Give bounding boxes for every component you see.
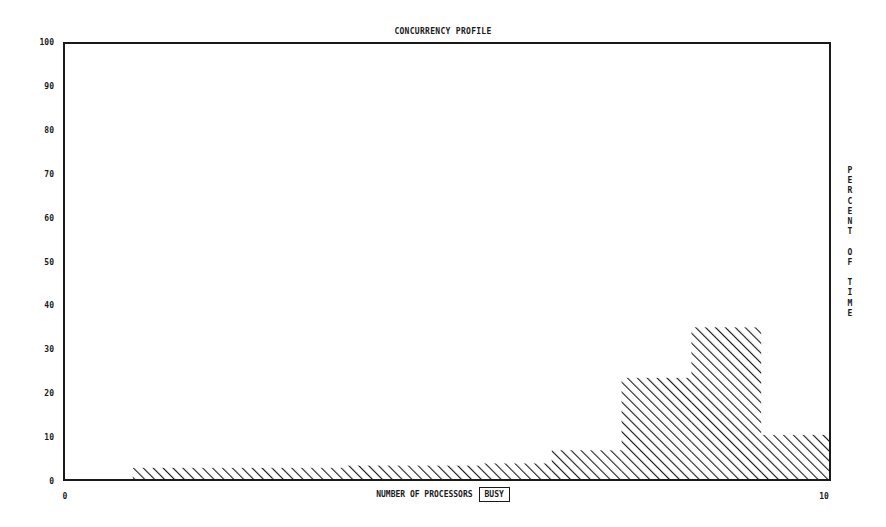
x-axis-label: NUMBER OF PROCESSORS BUSY bbox=[0, 487, 886, 502]
y-tick-label: 60 bbox=[28, 213, 54, 222]
histogram-bar bbox=[482, 463, 552, 481]
y-tick-label: 100 bbox=[28, 38, 54, 47]
histogram-bar bbox=[133, 468, 203, 481]
x-axis-label-text: NUMBER OF PROCESSORS bbox=[376, 490, 472, 499]
y-tick-label: 10 bbox=[28, 433, 54, 442]
histogram-bars bbox=[63, 42, 831, 481]
y-axis-label-text: P E R C E N T O F T I M E bbox=[848, 166, 853, 318]
y-tick-label: 70 bbox=[28, 169, 54, 178]
y-tick-label: 50 bbox=[28, 257, 54, 266]
histogram-bar bbox=[552, 450, 622, 481]
y-tick-label: 20 bbox=[28, 389, 54, 398]
histogram-bar bbox=[691, 327, 761, 481]
histogram-bar bbox=[272, 468, 342, 481]
y-tick-label: 0 bbox=[28, 477, 54, 486]
histogram-bar bbox=[622, 378, 692, 481]
y-axis-label: P E R C E N T O F T I M E bbox=[844, 166, 856, 319]
histogram-bar bbox=[203, 468, 273, 481]
histogram-bar bbox=[761, 435, 831, 481]
y-tick-label: 30 bbox=[28, 345, 54, 354]
y-tick-label: 40 bbox=[28, 301, 54, 310]
chart-title: CONCURRENCY PROFILE bbox=[0, 27, 886, 36]
histogram-bar bbox=[412, 466, 482, 481]
histogram-bar bbox=[342, 466, 412, 481]
y-tick-label: 90 bbox=[28, 81, 54, 90]
x-axis-label-box: BUSY bbox=[479, 487, 510, 502]
y-tick-label: 80 bbox=[28, 125, 54, 134]
